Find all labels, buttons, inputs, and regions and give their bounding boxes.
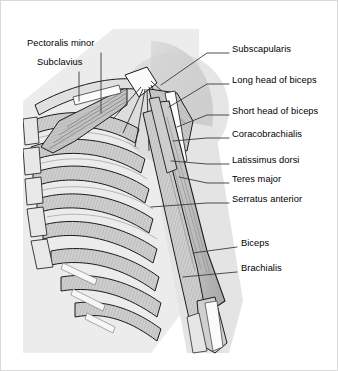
label-subclavius: Subclavius — [37, 58, 82, 67]
label-short-head-of-biceps: Short head of biceps — [232, 107, 318, 116]
label-subscapularis: Subscapularis — [232, 45, 291, 54]
label-brachialis: Brachialis — [241, 264, 282, 273]
label-serratus-anterior: Serratus anterior — [232, 195, 302, 204]
label-long-head-of-biceps: Long head of biceps — [232, 76, 317, 85]
label-pectoralis-minor: Pectoralis minor — [27, 39, 94, 48]
label-latissimus-dorsi: Latissimus dorsi — [232, 156, 299, 165]
label-biceps: Biceps — [241, 239, 269, 248]
label-coracobrachialis: Coracobrachialis — [232, 130, 302, 139]
anatomy-figure: Pectoralis minor Subclavius Subscapulari… — [0, 0, 338, 371]
label-teres-major: Teres major — [232, 175, 281, 184]
